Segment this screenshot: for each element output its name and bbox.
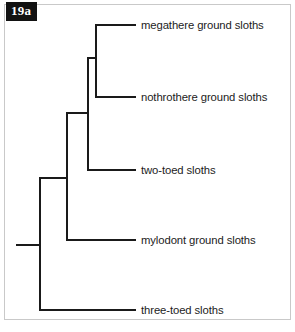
tip-label-megathere-ground-sloths: megathere ground sloths [141,19,264,31]
figure-number-badge: 19a [6,2,37,21]
tip-label-nothrothere-ground-sloths: nothrothere ground sloths [141,91,267,103]
cladogram-figure: 19a [0,0,295,332]
tip-label-three-toed-sloths: three-toed sloths [141,304,223,316]
tip-label-two-toed-sloths: two-toed sloths [141,164,215,176]
tip-label-mylodont-ground-sloths: mylodont ground sloths [141,234,256,246]
